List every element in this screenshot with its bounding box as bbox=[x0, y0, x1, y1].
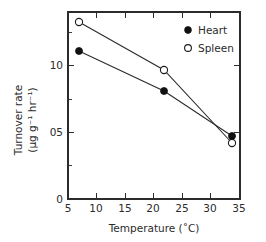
y-axis-right-ticks bbox=[234, 65, 240, 132]
series-spleen-line bbox=[79, 22, 232, 143]
data-point-spleen-2 bbox=[160, 66, 167, 73]
series-heart bbox=[76, 48, 236, 140]
x-tick-label-5: 30 bbox=[203, 202, 216, 214]
y-axis-title-line1: Turnover rate bbox=[12, 85, 24, 156]
data-point-spleen-1 bbox=[75, 18, 82, 25]
x-tick-label-3: 20 bbox=[146, 202, 159, 214]
legend: Heart Spleen bbox=[185, 24, 234, 54]
legend-marker-spleen-icon bbox=[185, 45, 192, 52]
x-axis-top-ticks bbox=[96, 12, 239, 18]
y-axis-title-line2: (μg g⁻¹ hr⁻¹) bbox=[26, 87, 38, 152]
line-chart: 5 10 15 20 25 30 35 0 05 10 Temperature … bbox=[0, 0, 266, 242]
chart-figure: 5 10 15 20 25 30 35 0 05 10 Temperature … bbox=[0, 0, 266, 242]
x-tick-label-1: 10 bbox=[89, 202, 102, 214]
x-axis-ticks bbox=[68, 193, 239, 199]
x-tick-labels: 5 10 15 20 25 30 35 bbox=[65, 202, 246, 214]
legend-marker-heart-icon bbox=[185, 27, 192, 34]
data-point-heart-2 bbox=[161, 88, 168, 95]
x-tick-label-6: 35 bbox=[232, 202, 245, 214]
data-point-heart-1 bbox=[76, 48, 83, 55]
x-tick-label-4: 25 bbox=[175, 202, 188, 214]
y-tick-label-2: 10 bbox=[50, 59, 63, 71]
series-heart-line bbox=[79, 51, 232, 136]
x-axis-title: Temperature (˚C) bbox=[108, 222, 200, 234]
x-tick-label-2: 15 bbox=[118, 202, 131, 214]
data-point-heart-3 bbox=[229, 133, 236, 140]
series-spleen bbox=[75, 18, 235, 146]
y-axis-ticks bbox=[68, 32, 74, 199]
data-point-spleen-3 bbox=[228, 139, 235, 146]
y-tick-label-0: 0 bbox=[56, 193, 63, 205]
legend-label-heart: Heart bbox=[198, 24, 227, 36]
x-tick-label-0: 5 bbox=[65, 202, 72, 214]
y-tick-labels: 0 05 10 bbox=[50, 59, 63, 205]
plot-frame bbox=[68, 12, 240, 199]
legend-label-spleen: Spleen bbox=[198, 42, 234, 54]
y-tick-label-1: 05 bbox=[50, 126, 63, 138]
y-axis-title: Turnover rate (μg g⁻¹ hr⁻¹) bbox=[12, 85, 38, 156]
